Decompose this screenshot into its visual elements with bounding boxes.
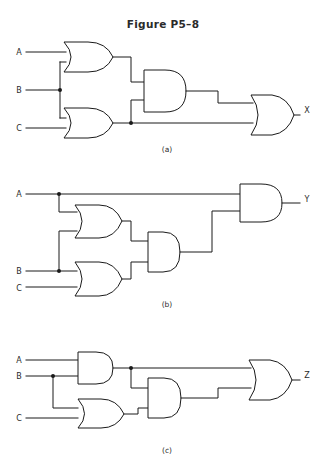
- circuit-a-output-label-X: X: [304, 106, 310, 115]
- circuit-b-caption: (b): [162, 300, 173, 309]
- or-gate-b1: [75, 205, 122, 238]
- figure-container: Figure P5–8 A B C X: [0, 0, 326, 470]
- or-gate-a1: [64, 42, 113, 72]
- logic-circuit-figure: Figure P5–8 A B C X: [0, 0, 326, 470]
- circuit-b-input-label-C: C: [16, 284, 22, 293]
- wire-a-or1-to-and3: [113, 57, 144, 82]
- circuit-c-input-label-C: C: [16, 414, 22, 423]
- circuit-c-caption: (c): [162, 446, 172, 455]
- junction-a-B: [58, 88, 62, 92]
- or-gate-c2: [78, 399, 124, 428]
- circuit-b: A B C Y (b): [16, 184, 309, 309]
- wire-b-or2-to-and3: [122, 262, 148, 279]
- circuit-a: A B C X (a): [16, 42, 310, 154]
- wire-a-or2-branch-to-and3: [131, 100, 144, 123]
- wire-b-A-branch: [59, 194, 77, 212]
- figure-title: Figure P5–8: [127, 18, 200, 30]
- and-gate-c1: [78, 352, 113, 384]
- or-gate-c4: [249, 360, 292, 400]
- wire-b-or1-to-and3: [122, 221, 148, 241]
- or-gate-a2: [64, 108, 113, 138]
- wire-b-and3-to-and4: [180, 211, 240, 252]
- and-gate-b4: [240, 184, 282, 222]
- circuit-a-input-label-B: B: [16, 86, 22, 95]
- wire-c-B-bus: [53, 376, 78, 408]
- circuit-b-input-label-A: A: [16, 190, 22, 199]
- circuit-c-output-label-Z: Z: [304, 371, 310, 380]
- circuit-a-input-label-A: A: [16, 48, 22, 57]
- or-gate-a4: [251, 95, 294, 135]
- wire-c-and3-to-or4: [181, 388, 251, 398]
- circuit-b-output-label-Y: Y: [304, 195, 310, 204]
- circuit-c: A B C Z (c): [16, 352, 310, 455]
- or-gate-b2: [75, 262, 122, 296]
- circuit-b-input-label-B: B: [16, 267, 22, 276]
- wire-a-and3-to-or4: [186, 91, 253, 103]
- circuit-a-caption: (a): [162, 145, 173, 154]
- circuit-c-input-label-B: B: [16, 372, 22, 381]
- and-gate-c3: [148, 378, 181, 418]
- wire-c-or2-to-and3: [124, 408, 148, 414]
- wire-b-B-bus: [59, 231, 77, 271]
- circuit-c-input-label-A: A: [16, 356, 22, 365]
- wire-c-and1-branch-to-and3: [131, 368, 148, 388]
- and-gate-b3: [148, 232, 180, 272]
- and-gate-a3: [144, 70, 186, 112]
- circuit-a-input-label-C: C: [16, 124, 22, 133]
